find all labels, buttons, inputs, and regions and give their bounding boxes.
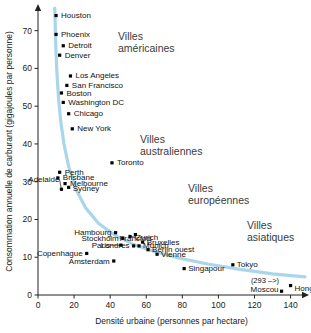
data-point xyxy=(231,263,234,266)
data-point xyxy=(132,244,135,247)
region-label-line2: européennes xyxy=(188,194,249,206)
city-label: Sydney xyxy=(73,184,100,193)
city-label: Moscou xyxy=(251,285,279,294)
villes-europeennes: Villeseuropéennes xyxy=(188,182,249,206)
city-label: Vienne xyxy=(161,250,186,259)
region-label-line1: Villes xyxy=(247,219,272,231)
data-point xyxy=(155,253,158,256)
data-point xyxy=(60,188,63,191)
y-tick-label: 40 xyxy=(23,139,33,149)
y-tick-label: 20 xyxy=(23,214,33,224)
y-tick-label: 60 xyxy=(23,63,33,73)
city-label: Amsterdam xyxy=(69,257,110,266)
data-point xyxy=(62,44,65,47)
region-label-line1: Villes xyxy=(140,133,165,145)
city-label: Paris xyxy=(92,241,110,250)
y-tick-label: 70 xyxy=(23,26,33,36)
villes-americaines: Villesaméricaines xyxy=(118,30,175,54)
x-tick-label: 120 xyxy=(247,300,261,310)
y-tick-label: 0 xyxy=(27,290,32,300)
data-point xyxy=(54,14,57,17)
fuel-consumption-vs-urban-density-chart: 010203040506070020406080100120140 Housto… xyxy=(0,0,311,333)
city-label: Adelaide xyxy=(28,175,60,184)
city-label: Tokyo xyxy=(237,260,258,269)
data-point xyxy=(85,252,88,255)
hong-kong-offscale: (293 –>) xyxy=(251,276,280,285)
data-point xyxy=(58,54,61,57)
data-point xyxy=(69,74,72,77)
y-axis-title: Consommation annuelle de carburant (giga… xyxy=(4,31,14,272)
city-label: Houston xyxy=(61,11,91,20)
city-label: Hong Kong xyxy=(295,284,311,293)
city-label: Phoenix xyxy=(61,30,90,39)
x-tick-label: 40 xyxy=(105,300,115,310)
region-label-line2: américaines xyxy=(118,42,175,54)
city-label: Denver xyxy=(65,51,91,60)
city-label: Boston xyxy=(66,89,91,98)
chart-canvas: 010203040506070020406080100120140 Housto… xyxy=(0,0,311,333)
data-point xyxy=(280,290,283,293)
x-tick-label: 140 xyxy=(283,300,297,310)
region-labels: VillesaméricainesVillesaustraliennesVill… xyxy=(118,30,294,243)
x-tick-label: 100 xyxy=(211,300,225,310)
y-tick-label: 50 xyxy=(23,101,33,111)
y-axis-arrow xyxy=(35,4,41,11)
x-tick-label: 0 xyxy=(36,300,41,310)
city-label: Detroit xyxy=(68,41,92,50)
data-point xyxy=(54,33,57,36)
x-tick-label: 20 xyxy=(69,300,79,310)
data-point xyxy=(137,244,140,247)
data-point xyxy=(121,237,124,240)
y-tick-label: 10 xyxy=(23,252,33,262)
annotations: (293 –>) xyxy=(251,276,280,285)
city-label: Chicago xyxy=(74,109,104,118)
city-label: New York xyxy=(77,124,112,133)
data-point xyxy=(128,235,131,238)
data-point xyxy=(58,171,61,174)
data-point xyxy=(289,284,292,287)
x-axis-arrow xyxy=(302,292,309,298)
city-label: Toronto xyxy=(117,158,144,167)
region-label-line1: Villes xyxy=(188,182,213,194)
data-point xyxy=(183,267,186,270)
region-label-line1: Villes xyxy=(118,30,143,42)
data-point xyxy=(67,112,70,115)
x-tick-label: 80 xyxy=(178,300,188,310)
data-point xyxy=(119,244,122,247)
data-point xyxy=(112,259,115,262)
city-label: Singapour xyxy=(188,264,225,273)
city-label: Los Angeles xyxy=(75,71,119,80)
data-point xyxy=(60,91,63,94)
x-tick-label: 60 xyxy=(142,300,152,310)
villes-asiatiques: Villesasiatiques xyxy=(247,219,294,243)
region-label-line2: australiennes xyxy=(140,145,202,157)
x-axis-title: Densité urbaine (personnes par hectare) xyxy=(95,316,248,326)
city-label: Washington DC xyxy=(68,98,124,107)
region-label-line2: asiatiques xyxy=(247,231,294,243)
data-point xyxy=(65,84,68,87)
data-point xyxy=(71,127,74,130)
data-point xyxy=(62,101,65,104)
data-point xyxy=(110,161,113,164)
data-point xyxy=(63,182,66,185)
data-point xyxy=(146,248,149,251)
villes-australiennes: Villesaustraliennes xyxy=(140,133,202,157)
data-point xyxy=(67,186,70,189)
